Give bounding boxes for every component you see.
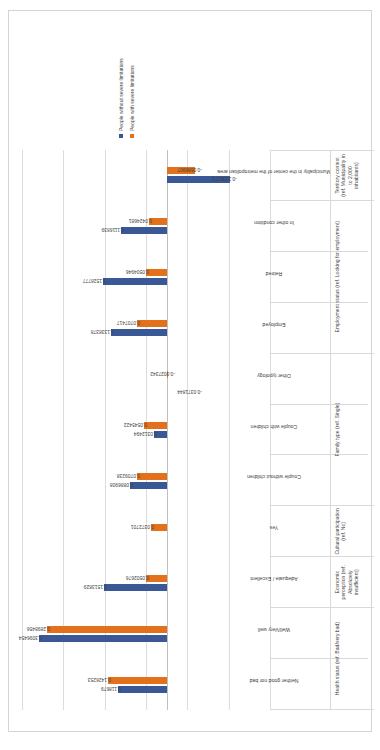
gridline (22, 150, 23, 710)
gridline (187, 150, 188, 710)
group-cell: Cultural participation (ref. No) (330, 506, 374, 557)
bar-value-label: 0.0709238 (117, 473, 140, 478)
group-label: Employment status (ref. Looking for empl… (334, 205, 340, 348)
bar-without-limitations[interactable] (130, 482, 167, 489)
group-label: Family type (ref. Single) (334, 358, 340, 501)
bar-value-label: 0.0372701 (131, 524, 154, 529)
gridline (229, 150, 230, 710)
bar-value-label: 0.0312494 (134, 431, 157, 436)
bar-value-label: 0.1528777 (83, 278, 106, 283)
bar-value-label: 0.1513829 (84, 584, 107, 589)
bar-with-limitations[interactable] (137, 473, 166, 480)
legend-label: People without severe limitations (118, 58, 124, 131)
category-label: Other typology (257, 373, 291, 379)
zero-axis-line (167, 150, 168, 710)
bar-with-limitations[interactable] (137, 320, 166, 327)
category-label: Yes (270, 525, 278, 531)
chart-legend: People without severe limitationsPeople … (118, 58, 135, 138)
category-label: Employed (262, 322, 285, 328)
group-cell: Economic perception (ref. Absolutely ins… (330, 557, 374, 608)
bar-value-label: 0.1116839 (101, 227, 123, 232)
category-label: Municipality in the center of the metrop… (217, 169, 330, 175)
chart-rotation-wrapper: 0.350.250.150.05-0.05-0.15-0.250.1186790… (0, 0, 380, 750)
bar-value-label: 0.0504946 (126, 269, 149, 274)
legend-item[interactable]: People with severe limitations (129, 58, 135, 138)
bar-without-limitations[interactable] (118, 686, 167, 693)
group-label: Cultural participation (ref. No) (334, 508, 347, 555)
bar-with-limitations[interactable] (47, 626, 167, 633)
category-label: In other condition (254, 220, 294, 226)
category-label: Couple without children (247, 474, 301, 480)
bar-value-label: 0.0502676 (126, 575, 149, 580)
legend-swatch-icon (119, 134, 123, 138)
bar-value-label: 0.0424681 (129, 218, 152, 223)
group-cell: Family type (ref. Single) (330, 354, 374, 507)
category-label: Neither good nor bad (250, 678, 299, 684)
bar-without-limitations[interactable] (121, 227, 167, 234)
bar-with-limitations[interactable] (108, 677, 167, 684)
bar-value-label: -0.0686907 (177, 167, 202, 172)
bar-value-label: 0.0545422 (124, 422, 147, 427)
bar-without-limitations[interactable] (104, 584, 167, 591)
plot-area: 0.350.250.150.05-0.05-0.15-0.250.1186790… (22, 150, 270, 710)
bar-value-label: 0.1338378 (91, 329, 114, 334)
chart-canvas: 0.350.250.150.05-0.05-0.15-0.250.1186790… (0, 0, 380, 750)
legend-item[interactable]: People without severe limitations (118, 58, 124, 138)
bar-value-label: 0.1426253 (88, 677, 111, 682)
group-cell: Health status (ref. Bad/very bad) (330, 608, 374, 710)
group-axis: Health status (ref. Bad/very bad)Economi… (330, 150, 374, 710)
group-label: Health status (ref. Bad/very bad) (334, 611, 340, 706)
bar-value-label: -0.0027342 (150, 371, 175, 376)
legend-swatch-icon (130, 134, 134, 138)
bar-value-label: 0.118679 (101, 686, 121, 691)
bar-value-label: -0.1536173 (212, 176, 237, 181)
bar-value-label: 0.2898456 (27, 626, 50, 631)
category-label: Couple with children (251, 424, 298, 430)
category-axis: Neither good nor badWell/Very wellAdequa… (270, 150, 271, 710)
group-label: Territory context (ref. Municipality in … (334, 152, 359, 198)
bar-value-label: 0.0707417 (117, 320, 140, 325)
bar-value-label: 0.0886908 (110, 482, 133, 487)
bar-without-limitations[interactable] (103, 278, 166, 285)
bar-without-limitations[interactable] (39, 635, 167, 642)
group-cell: Territory context (ref. Municipality in … (330, 150, 374, 201)
bar-value-label: -0.0371844 (177, 389, 202, 394)
category-label: Adequate / Excellent (250, 576, 298, 582)
group-label: Economic perception (ref. Absolutely ins… (334, 559, 359, 606)
category-label: Retired (266, 271, 283, 277)
bar-with-limitations[interactable] (144, 422, 167, 429)
category-label: Well/Very well (258, 627, 290, 633)
group-cell: Employment status (ref. Looking for empl… (330, 201, 374, 354)
bar-without-limitations[interactable] (111, 329, 166, 336)
legend-label: People with severe limitations (129, 65, 135, 131)
bar-value-label: 0.3096454 (19, 635, 42, 640)
